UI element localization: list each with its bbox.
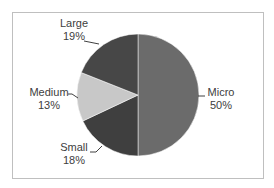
label-name: Small bbox=[58, 141, 90, 154]
label-value: 50% bbox=[204, 99, 238, 112]
data-label-medium: Medium 13% bbox=[28, 86, 70, 112]
label-value: 19% bbox=[58, 30, 90, 43]
data-label-large: Large 19% bbox=[58, 17, 90, 43]
pie-slices bbox=[77, 34, 199, 156]
label-name: Medium bbox=[28, 86, 70, 99]
data-label-micro: Micro 50% bbox=[204, 86, 238, 112]
data-label-small: Small 18% bbox=[58, 141, 90, 167]
label-name: Micro bbox=[204, 86, 238, 99]
pie-slice-micro bbox=[138, 34, 199, 156]
label-value: 13% bbox=[28, 99, 70, 112]
label-value: 18% bbox=[58, 154, 90, 167]
label-name: Large bbox=[58, 17, 90, 30]
leader-line-small bbox=[90, 146, 102, 152]
